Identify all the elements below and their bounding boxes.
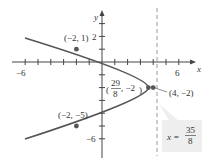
- tick-label-x-6: 6: [175, 68, 180, 78]
- parabola-chart: y x −6 6 2 −6 (−2, 1) (−2, −5) ( 29 8 , …: [0, 0, 208, 164]
- y-axis-label: y: [93, 12, 98, 22]
- vertex-point: [146, 85, 151, 90]
- x-axis-arrow: [190, 60, 196, 65]
- label-point-neg2-neg5: (−2, −5): [58, 110, 88, 120]
- focus-leader: [155, 88, 167, 92]
- vertex-numerator: 29: [111, 78, 121, 88]
- vertex-label: ( 29 8 , −2 ): [106, 78, 142, 99]
- callout-pointer: [159, 104, 180, 122]
- tick-label-y-neg6: −6: [86, 134, 96, 144]
- tick-label-x-neg6: −6: [16, 68, 26, 78]
- y-axis-arrow: [100, 10, 105, 16]
- svg-text:): ): [139, 85, 142, 95]
- vertex-y-value: , −2: [121, 83, 135, 93]
- vertex-denominator: 8: [113, 89, 118, 99]
- focus-point: [151, 85, 156, 90]
- label-focus: (4, −2): [169, 88, 194, 98]
- x-axis-label: x: [196, 64, 201, 74]
- directrix-numerator: 35: [186, 125, 196, 135]
- directrix-denominator: 8: [188, 136, 193, 146]
- point-neg2-neg5: [74, 124, 79, 129]
- directrix-lhs: x =: [166, 132, 179, 142]
- point-neg2-1: [74, 47, 79, 52]
- tick-label-y-2: 2: [92, 32, 97, 42]
- svg-text:(: (: [106, 85, 109, 95]
- label-point-neg2-1: (−2, 1): [64, 33, 89, 43]
